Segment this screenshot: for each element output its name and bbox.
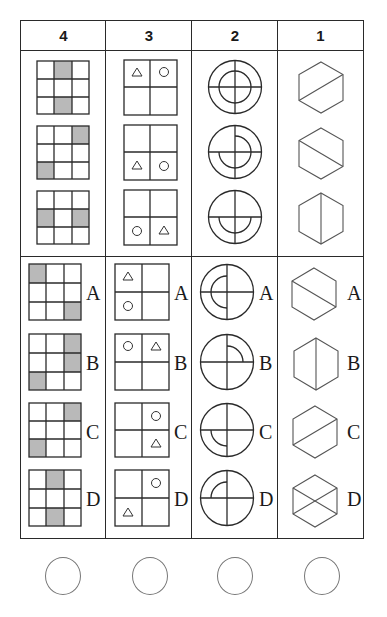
option-label-d: D (86, 489, 100, 509)
symbol-grid-option-d[interactable] (114, 469, 170, 527)
option-label-d: D (259, 489, 273, 509)
hexagon-figure-seq-2 (298, 127, 344, 180)
column-divider (191, 21, 192, 538)
answer-bubble-1[interactable] (304, 557, 340, 595)
option-label-c: C (347, 422, 360, 442)
grid-figure-seq-1 (36, 60, 90, 115)
grid-option-a[interactable] (28, 263, 82, 321)
circle-option-d[interactable] (199, 469, 255, 527)
grid-option-b[interactable] (28, 333, 82, 391)
hexagon-figure-seq-3 (298, 192, 344, 245)
option-label-d: D (347, 489, 361, 509)
symbol-grid-option-c[interactable] (114, 402, 170, 458)
column-header-2: 2 (192, 21, 278, 50)
sequence-options-divider (21, 256, 363, 257)
answer-bubble-2[interactable] (217, 557, 253, 595)
hexagon-option-b[interactable] (293, 337, 339, 391)
symbol-grid-seq-2 (123, 124, 178, 181)
circle-figure-seq-3 (207, 189, 263, 245)
symbol-grid-seq-3 (123, 189, 178, 246)
answer-bubble-3[interactable] (132, 557, 168, 595)
column-header-1: 1 (278, 21, 363, 50)
column-header-3: 3 (106, 21, 192, 50)
column-divider (105, 21, 106, 538)
answer-bubble-4[interactable] (45, 557, 81, 595)
option-label-b: B (259, 353, 272, 373)
option-label-c: C (174, 422, 187, 442)
column-divider (277, 21, 278, 538)
grid-option-c[interactable] (28, 402, 82, 458)
option-label-b: B (347, 353, 360, 373)
option-label-a: A (174, 283, 188, 303)
grid-option-d[interactable] (28, 469, 82, 527)
hexagon-option-a[interactable] (291, 267, 337, 321)
option-label-d: D (174, 489, 188, 509)
option-label-b: B (86, 353, 99, 373)
symbol-grid-seq-1 (123, 59, 178, 116)
option-label-a: A (86, 283, 100, 303)
column-header-4: 4 (21, 21, 106, 50)
option-label-c: C (86, 422, 99, 442)
circle-figure-seq-2 (207, 124, 263, 180)
circle-option-b[interactable] (199, 333, 255, 391)
option-label-a: A (347, 283, 361, 303)
header-row: 4 3 2 1 (21, 21, 363, 51)
grid-figure-seq-3 (36, 190, 90, 245)
circle-figure-seq-1 (207, 59, 263, 115)
option-label-a: A (259, 283, 273, 303)
grid-figure-seq-2 (36, 125, 90, 180)
circle-option-c[interactable] (199, 402, 255, 458)
hexagon-option-c[interactable] (292, 405, 338, 459)
symbol-grid-option-b[interactable] (114, 333, 170, 391)
hexagon-figure-seq-1 (298, 61, 344, 114)
circle-option-a[interactable] (199, 263, 255, 321)
option-label-b: B (174, 353, 187, 373)
hexagon-option-d[interactable] (292, 474, 338, 528)
symbol-grid-option-a[interactable] (114, 263, 170, 321)
option-label-c: C (259, 422, 272, 442)
